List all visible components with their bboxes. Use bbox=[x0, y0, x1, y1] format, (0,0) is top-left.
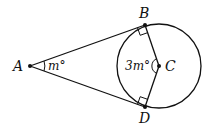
point-b bbox=[143, 23, 147, 27]
label-b: B bbox=[138, 5, 149, 21]
angle-arc-c bbox=[152, 59, 156, 73]
label-a: A bbox=[11, 58, 23, 74]
label-d: D bbox=[138, 110, 150, 126]
label-c: C bbox=[165, 58, 176, 74]
angle-arc-a bbox=[44, 61, 45, 71]
point-d bbox=[143, 105, 147, 109]
point-a bbox=[28, 64, 32, 68]
point-c bbox=[157, 64, 161, 68]
angle-label-a: m° bbox=[48, 59, 65, 73]
tangent-circle-diagram: A B C D m° 3m° bbox=[0, 0, 211, 126]
angle-label-c: 3m° bbox=[125, 59, 150, 73]
